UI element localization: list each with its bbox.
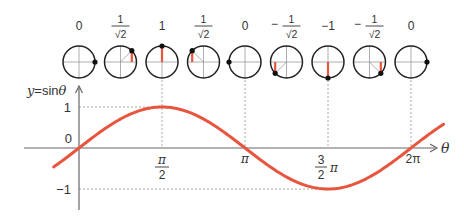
svg-text:2: 2 [159,168,166,182]
y-tick-label-1: 1 [64,100,71,115]
sine-unit-circle-diagram: y=sinθ θ 1 0 −1 π 2 π 3 2 π 2π 01√211√20… [0,0,464,217]
point-dot-icon [159,43,164,48]
svg-text:1: 1 [159,19,166,33]
svg-text:−1: −1 [321,19,335,33]
svg-text:1: 1 [289,13,295,25]
svg-text:0: 0 [408,19,415,33]
unit-circle-270: −1 [312,19,344,81]
svg-text:0: 0 [242,19,249,33]
svg-text:π: π [157,153,167,167]
sin-value-label: 1√2 [195,13,213,40]
unit-circle-135: 1√2 [188,13,220,78]
x-tick-label-pi-over-2: π 2 [155,153,169,182]
diagram-canvas: y=sinθ θ 1 0 −1 π 2 π 3 2 π 2π 01√211√20… [0,0,464,217]
svg-text:√2: √2 [286,28,298,40]
point-dot-icon [190,48,195,53]
svg-text:1: 1 [201,13,207,25]
point-dot-icon [378,71,383,76]
svg-text:0: 0 [76,19,83,33]
svg-text:π: π [329,161,339,175]
sin-value-label: 0 [242,19,249,33]
y-tick-label-neg1: −1 [56,182,71,197]
x-tick-label-pi: π [240,152,250,166]
sin-value-label: 0 [76,19,83,33]
sin-value-label: −1√2 [271,13,301,40]
svg-text:2: 2 [318,168,325,182]
unit-circle-0: 0 [63,19,98,78]
unit-circle-45: 1√2 [105,13,137,78]
sin-value-label: 1√2 [112,13,130,40]
sin-value-label: −1√2 [354,13,384,40]
unit-circle-180: 0 [226,19,261,78]
svg-text:−: − [354,17,361,31]
x-tick-label-2pi: 2π [406,152,421,166]
point-dot-icon [325,75,330,80]
point-dot-icon [226,59,231,64]
point-dot-icon [92,59,97,64]
svg-text:3: 3 [318,153,325,167]
axes [24,86,437,210]
unit-circle-90: 1 [146,19,178,78]
point-dot-icon [273,71,278,76]
sin-value-label: −1 [321,19,335,33]
unit-circles: 01√211√20−1√2−1−1√20 [63,13,430,81]
y-axis-label: y=sinθ [26,83,67,98]
sin-value-label: 1 [159,19,166,33]
svg-text:√2: √2 [198,28,210,40]
point-dot-icon [129,48,134,53]
x-tick-label-3pi-over-2: 3 2 π [315,153,339,182]
unit-circle-360: 0 [395,19,430,78]
unit-circle-315: −1√2 [354,13,386,78]
point-dot-icon [424,59,429,64]
unit-circle-225: −1√2 [271,13,303,78]
x-axis-label: θ [441,140,450,156]
svg-text:1: 1 [372,13,378,25]
svg-text:√2: √2 [115,28,127,40]
y-tick-label-0: 0 [65,131,72,146]
dotted-guides [79,80,411,189]
svg-text:−: − [271,17,278,31]
svg-text:1: 1 [118,13,124,25]
svg-text:√2: √2 [369,28,381,40]
sin-value-label: 0 [408,19,415,33]
